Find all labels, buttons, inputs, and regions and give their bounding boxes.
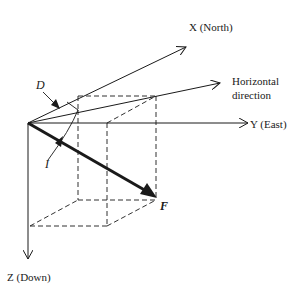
x-axis-north [28, 47, 186, 123]
declination-arc [67, 102, 78, 110]
declination-arrowhead-icon [51, 99, 60, 109]
declination-pointer [43, 92, 55, 104]
z-axis-label: Z (Down) [7, 271, 51, 284]
horizontal-direction-label-line1: Horizontal [232, 75, 279, 87]
field-label: F [159, 199, 168, 213]
horizontal-direction-label-line2: direction [232, 89, 272, 101]
field-vector-arrowhead [140, 183, 157, 198]
y-axis-label: Y (East) [250, 118, 287, 131]
declination-label: D [35, 78, 45, 92]
geomagnetic-field-diagram: X (North) Horizontal direction Y (East) … [0, 0, 297, 293]
x-axis-label: X (North) [189, 21, 233, 34]
